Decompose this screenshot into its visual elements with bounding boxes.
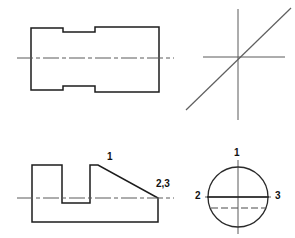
label-point-3-circle: 3 <box>275 191 281 201</box>
stepped-cylinder-outline <box>31 27 159 92</box>
label-point-1-circle: 1 <box>234 148 240 158</box>
view-stepped-cylinder <box>17 27 174 92</box>
notched-block-outline <box>32 165 158 222</box>
engineering-drawing-canvas <box>0 0 295 238</box>
label-points-2-3-block: 2,3 <box>156 179 170 189</box>
label-point-1-block: 1 <box>107 152 113 162</box>
label-point-2-circle: 2 <box>195 191 201 201</box>
view-notched-block <box>17 165 174 222</box>
technical-drawing-sheet: 1 2,3 1 2 3 <box>0 0 295 238</box>
view-axis-cross <box>186 8 291 120</box>
view-circular-end <box>205 160 271 234</box>
